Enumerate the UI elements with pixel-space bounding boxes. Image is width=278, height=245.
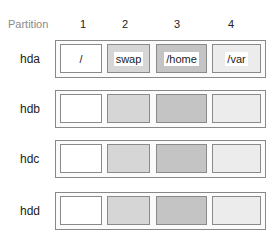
partition-hdc-3 xyxy=(156,144,207,173)
partition-label: / xyxy=(77,52,84,66)
partition-hdc-1 xyxy=(60,144,102,173)
column-header-3: 3 xyxy=(174,18,180,30)
partition-hdb-3 xyxy=(156,94,207,123)
partition-hdd-1 xyxy=(60,196,102,225)
disk-label-hdd: hdd xyxy=(20,204,40,218)
partition-hdc-2 xyxy=(107,144,150,173)
partition-label: /var xyxy=(225,52,247,66)
partition-hdd-3 xyxy=(156,196,207,225)
partition-hdd-2 xyxy=(107,196,150,225)
column-header-1: 1 xyxy=(80,18,86,30)
disk-label-hdc: hdc xyxy=(20,152,39,166)
partition-label: /home xyxy=(164,52,199,66)
disk-hdb xyxy=(55,90,266,128)
column-header-2: 2 xyxy=(122,18,128,30)
disk-hda: / swap /home /var xyxy=(55,40,266,78)
partition-hdc-4 xyxy=(212,144,261,173)
partition-hdb-2 xyxy=(107,94,150,123)
disk-hdc xyxy=(55,140,266,178)
partition-hdd-4 xyxy=(212,196,261,225)
partition-hda-2: swap xyxy=(107,44,150,73)
partition-hdb-4 xyxy=(212,94,261,123)
partition-hda-3: /home xyxy=(156,44,207,73)
partition-hda-4: /var xyxy=(212,44,261,73)
disk-hdd xyxy=(55,192,266,230)
disk-label-hda: hda xyxy=(20,52,40,66)
partition-header-label: Partition xyxy=(8,18,48,30)
partition-hdb-1 xyxy=(60,94,102,123)
partition-hda-1: / xyxy=(60,44,102,73)
disk-label-hdb: hdb xyxy=(20,102,40,116)
column-header-4: 4 xyxy=(228,18,234,30)
partition-label: swap xyxy=(114,52,144,66)
